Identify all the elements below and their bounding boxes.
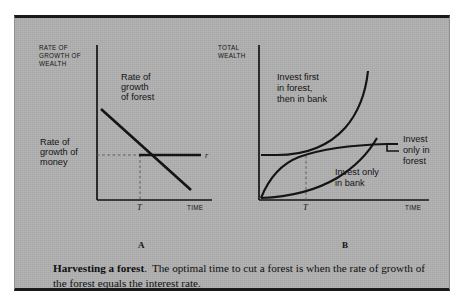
panel-b-forest-only-label-line2: only in	[403, 145, 430, 155]
panel-a-forest-label-line1: Rate of	[121, 72, 151, 82]
panel-a-y-axis-label-line1: RATE OF	[39, 44, 68, 51]
panel-a-money-label-line3: money	[40, 157, 68, 167]
panel-b-forest-then-bank-label-line1: Invest first	[277, 72, 319, 82]
panel-a-forest-label-line2: growth	[121, 82, 149, 92]
panel-a-letter: A	[138, 240, 145, 250]
panel-b-forest-then-bank-label-line3: then in bank	[277, 94, 327, 104]
panel-b-bank-only-label-line2: in bank	[335, 178, 365, 188]
figure-caption: Harvesting a forest.The optimal time to …	[53, 261, 433, 290]
figure-plot-area: RATE OF GROWTH OF WEALTH r Rate of growt…	[15, 18, 451, 294]
panel-a-money-label-line2: growth of	[40, 147, 78, 157]
figure-frame: RATE OF GROWTH OF WEALTH r Rate of growt…	[14, 15, 450, 291]
panel-b-t-label: T	[303, 202, 309, 212]
panel-a-forest-growth-line	[101, 109, 191, 190]
panel-b-forest-only-label-line1: Invest	[403, 134, 428, 144]
panel-b-bank-only-label-line1: Invest only	[335, 167, 379, 177]
panel-a-interest-rate-symbol: r	[205, 151, 209, 160]
panel-a-y-axis-label-line3: WEALTH	[39, 60, 67, 67]
panel-a-forest-label-line3: of forest	[121, 92, 155, 102]
panel-b-forest-then-bank-label-line2: in forest,	[277, 83, 312, 93]
panel-b-y-axis-label-line2: WEALTH	[218, 52, 246, 59]
panel-b-forest-only-label-line3: forest	[403, 156, 426, 166]
panel-a-x-axis-label: TIME	[187, 204, 203, 211]
panel-b-x-axis-label: TIME	[405, 204, 421, 211]
caption-title: Harvesting a forest	[53, 262, 144, 274]
panel-a: RATE OF GROWTH OF WEALTH r Rate of growt…	[39, 44, 212, 212]
panel-a-y-axis-label-line2: GROWTH OF	[39, 52, 81, 59]
panel-a-money-label-line1: Rate of	[40, 137, 70, 147]
panel-a-t-label: T	[137, 202, 143, 212]
panel-b-letter: B	[342, 240, 348, 250]
caption-period: .	[144, 262, 147, 274]
panel-b-y-axis-label-line1: TOTAL	[218, 44, 239, 51]
panel-b: TOTAL WEALTH Invest first in forest, the…	[218, 44, 430, 212]
